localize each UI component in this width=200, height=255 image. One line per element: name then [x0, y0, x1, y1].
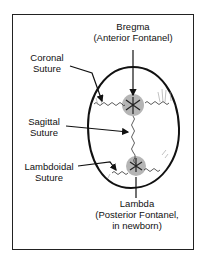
lambdoidal-label-line2: Suture	[20, 172, 78, 183]
lambda-label-line3: in newborn)	[84, 220, 190, 231]
sagittal-leader	[66, 126, 128, 132]
sagittal-label-line1: Sagittal	[22, 116, 66, 127]
lambdoidal-label: Lambdoidal Suture	[20, 161, 78, 183]
lambda-label-line1: Lambda	[84, 198, 190, 209]
lambdoidal-label-line1: Lambdoidal	[20, 161, 78, 172]
lambda-label: Lambda (Posterior Fontanel, in newborn)	[84, 198, 190, 231]
lambda-label-line2: (Posterior Fontanel,	[84, 209, 190, 220]
bregma-label: Bregma (Anterior Fontanel)	[78, 21, 188, 43]
coronal-label-line2: Suture	[22, 63, 72, 74]
coronal-label-line1: Coronal	[22, 52, 72, 63]
bregma-label-line1: Bregma	[78, 21, 188, 32]
coronal-label: Coronal Suture	[22, 52, 72, 74]
sagittal-label: Sagittal Suture	[22, 116, 66, 138]
coronal-leader	[70, 66, 102, 101]
bregma-label-line2: (Anterior Fontanel)	[78, 32, 188, 43]
sagittal-label-line2: Suture	[22, 127, 66, 138]
